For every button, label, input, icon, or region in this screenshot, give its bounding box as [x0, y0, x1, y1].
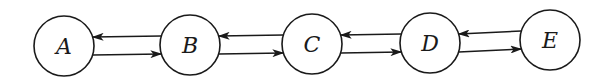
node-label: D	[420, 31, 439, 56]
arrow-e-to-d	[459, 31, 522, 34]
arrow-b-to-a	[93, 36, 162, 37]
node-label: E	[541, 28, 558, 53]
arrow-d-to-e	[459, 49, 522, 52]
node-b: B	[160, 15, 220, 75]
nodes: ABCDE	[34, 10, 580, 76]
node-label: C	[304, 32, 321, 57]
arrow-d-to-c	[341, 34, 402, 35]
arrow-c-to-b	[219, 35, 284, 36]
arrow-a-to-b	[93, 54, 162, 55]
arrow-b-to-c	[219, 53, 284, 54]
node-c: C	[282, 14, 342, 74]
arrow-c-to-d	[341, 52, 402, 53]
node-a: A	[34, 16, 94, 76]
chain-diagram: ABCDE	[0, 0, 605, 79]
node-d: D	[400, 13, 460, 73]
node-label: A	[54, 34, 72, 59]
node-e: E	[520, 10, 580, 70]
node-label: B	[181, 33, 198, 58]
